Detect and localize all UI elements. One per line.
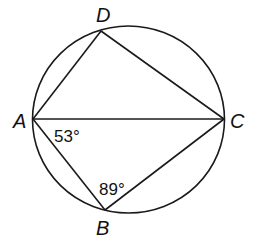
angle-label-b: 89° — [99, 180, 125, 199]
angle-label-a: 53° — [54, 127, 80, 146]
vertex-label-a: A — [12, 110, 26, 132]
inscribed-quadrilateral-diagram: D A C B 53° 89° — [0, 0, 257, 241]
vertex-label-b: B — [96, 217, 109, 239]
segment-dc — [101, 31, 224, 119]
vertex-label-d: D — [96, 4, 110, 26]
vertex-label-c: C — [230, 110, 245, 132]
